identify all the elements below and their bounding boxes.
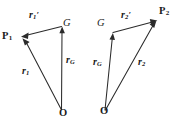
vector-label-r1-prime: r1′ bbox=[29, 10, 39, 21]
vector-diagram-canvas bbox=[0, 0, 182, 127]
vector-rG-right-arrowhead bbox=[110, 33, 116, 40]
point-label-G-right-base: G bbox=[97, 17, 105, 28]
vector-label-r1-prime-subscript: 1 bbox=[33, 13, 36, 20]
point-label-P2-base: P bbox=[159, 5, 165, 16]
vector-rG-right bbox=[105, 33, 115, 110]
vector-r1-arrowhead bbox=[22, 38, 29, 45]
point-label-P1-subscript: 1 bbox=[9, 34, 13, 42]
right-diagram-group bbox=[105, 19, 157, 110]
vector-r1-shaft bbox=[26, 42, 61, 109]
point-label-G-right: G bbox=[97, 18, 105, 29]
point-label-P2-subscript: 2 bbox=[166, 9, 170, 17]
vector-r1-prime bbox=[21, 27, 62, 39]
vector-label-rG-left: rG bbox=[66, 55, 75, 66]
vector-diagram-figure: P1 G O r1′ rG r1 G P2 O r2′ rG r2 bbox=[0, 0, 182, 127]
vector-label-r2-prime-mark: ′ bbox=[129, 10, 132, 20]
vector-label-rG-right-subscript: G bbox=[97, 60, 102, 67]
vector-label-r1-subscript: 1 bbox=[26, 69, 29, 76]
point-label-O-left: O bbox=[59, 108, 67, 119]
vector-label-r1-prime-mark: ′ bbox=[37, 10, 40, 20]
vector-label-r2-prime-subscript: 2 bbox=[125, 13, 128, 20]
vector-r1-prime-shaft bbox=[26, 27, 62, 36]
point-label-O-right: O bbox=[100, 106, 108, 117]
vector-label-r2: r2 bbox=[138, 57, 145, 68]
vector-label-rG-left-subscript: G bbox=[70, 58, 75, 65]
point-label-P1-base: P bbox=[2, 30, 8, 41]
vector-label-r2-prime: r2′ bbox=[121, 10, 131, 21]
point-label-P1: P1 bbox=[2, 31, 12, 42]
point-label-O-left-base: O bbox=[59, 107, 67, 118]
point-label-O-right-base: O bbox=[100, 105, 108, 116]
vector-rG-left bbox=[59, 27, 65, 110]
vector-r1-prime-arrowhead bbox=[21, 33, 29, 39]
point-label-P2: P2 bbox=[159, 6, 169, 17]
point-label-G-left: G bbox=[63, 18, 71, 29]
vector-rG-left-shaft bbox=[62, 32, 63, 110]
vector-label-rG-right: rG bbox=[93, 57, 102, 68]
vector-r2-prime-shaft bbox=[113, 22, 153, 33]
point-label-G-left-base: G bbox=[63, 17, 71, 28]
vector-label-r1: r1 bbox=[22, 66, 29, 77]
vector-label-r2-subscript: 2 bbox=[142, 60, 145, 67]
